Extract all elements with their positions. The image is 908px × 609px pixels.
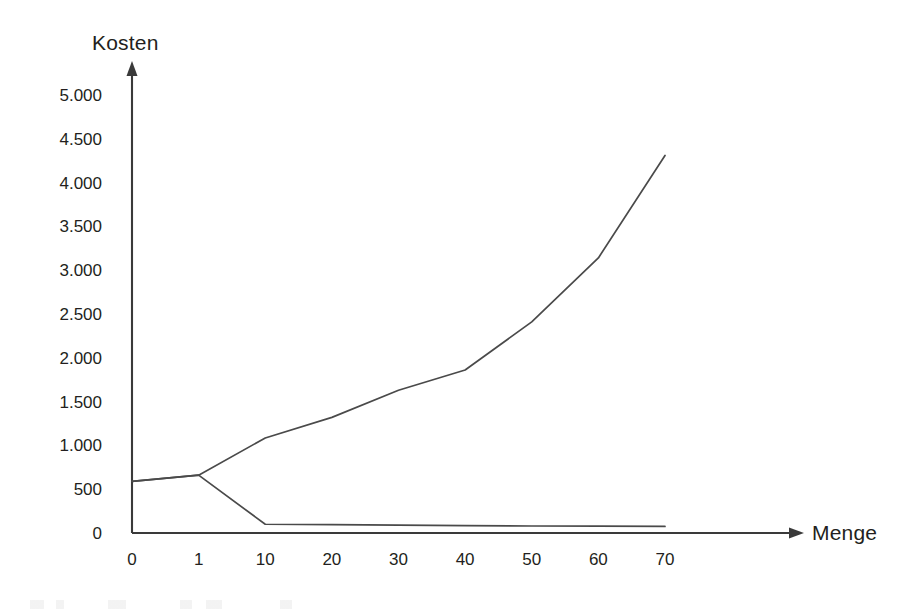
x-tick-label: 70: [638, 551, 692, 568]
y-tick-label: 0: [26, 525, 102, 542]
x-tick-label: 0: [105, 551, 159, 568]
y-tick-label: 1.500: [26, 394, 102, 411]
x-tick-label: 1: [172, 551, 226, 568]
y-tick-label: 3.000: [26, 262, 102, 279]
cost-quantity-chart: Kosten Menge 05001.0001.5002.0002.5003.0…: [0, 0, 908, 609]
x-tick-label: 30: [372, 551, 426, 568]
y-tick-label: 2.000: [26, 350, 102, 367]
y-tick-label: 2.500: [26, 306, 102, 323]
series-line-gesamtkosten: [132, 155, 665, 481]
series-line-stueckkosten: [132, 475, 665, 526]
plot-area: [0, 0, 908, 609]
x-axis-arrowhead: [789, 528, 804, 539]
y-axis-arrowhead: [127, 61, 138, 76]
x-tick-label: 40: [438, 551, 492, 568]
x-tick-label: 60: [571, 551, 625, 568]
y-tick-label: 1.000: [26, 437, 102, 454]
y-tick-label: 5.000: [26, 87, 102, 104]
x-tick-label: 20: [305, 551, 359, 568]
x-tick-label: 10: [238, 551, 292, 568]
y-tick-label: 3.500: [26, 218, 102, 235]
y-tick-label: 4.500: [26, 131, 102, 148]
x-tick-label: 50: [505, 551, 559, 568]
page-edge-artifact: [30, 600, 360, 609]
y-tick-label: 500: [26, 481, 102, 498]
y-tick-label: 4.000: [26, 175, 102, 192]
